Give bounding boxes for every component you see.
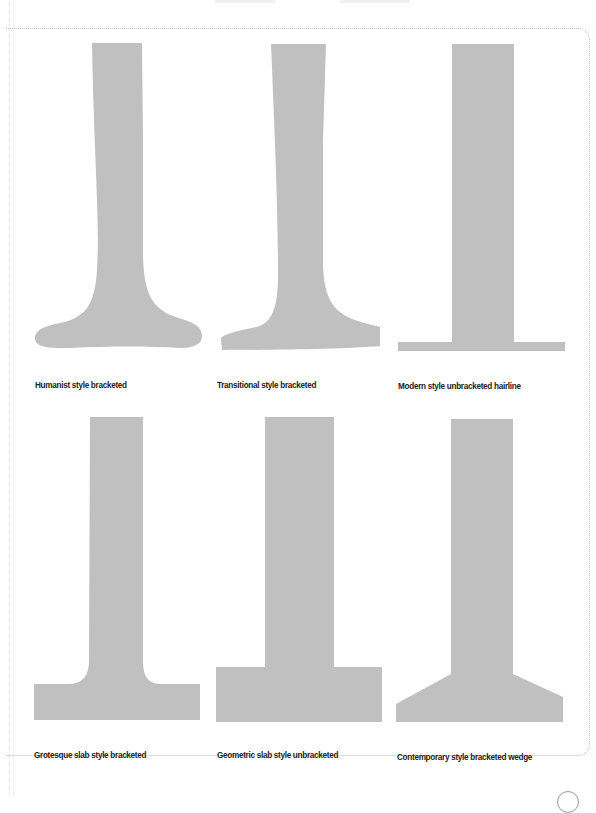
page-number-circle xyxy=(557,791,579,813)
label-modern: Modern style unbracketed hairline xyxy=(398,380,521,391)
serif-humanist xyxy=(30,40,210,360)
label-humanist: Humanist style bracketed xyxy=(35,379,127,390)
serif-transitional xyxy=(215,40,385,360)
serif-grotesque xyxy=(30,415,210,725)
serif-geometric xyxy=(213,415,388,725)
serif-modern xyxy=(395,40,570,360)
transitional-serif-shape xyxy=(215,40,385,360)
header-mark xyxy=(340,0,410,3)
label-transitional: Transitional style bracketed xyxy=(217,379,316,390)
geometric-serif-shape xyxy=(213,415,388,725)
grotesque-serif-shape xyxy=(30,415,210,725)
humanist-serif-shape xyxy=(30,40,210,360)
contemporary-serif-shape xyxy=(395,415,570,725)
label-geometric: Geometric slab style unbracketed xyxy=(217,749,338,760)
label-contemporary: Contemporary style bracketed wedge xyxy=(397,751,532,762)
label-grotesque: Grotesque slab style bracketed xyxy=(34,749,146,760)
header-mark xyxy=(215,0,275,3)
modern-serif-shape xyxy=(395,40,570,360)
serif-contemporary xyxy=(395,415,570,725)
